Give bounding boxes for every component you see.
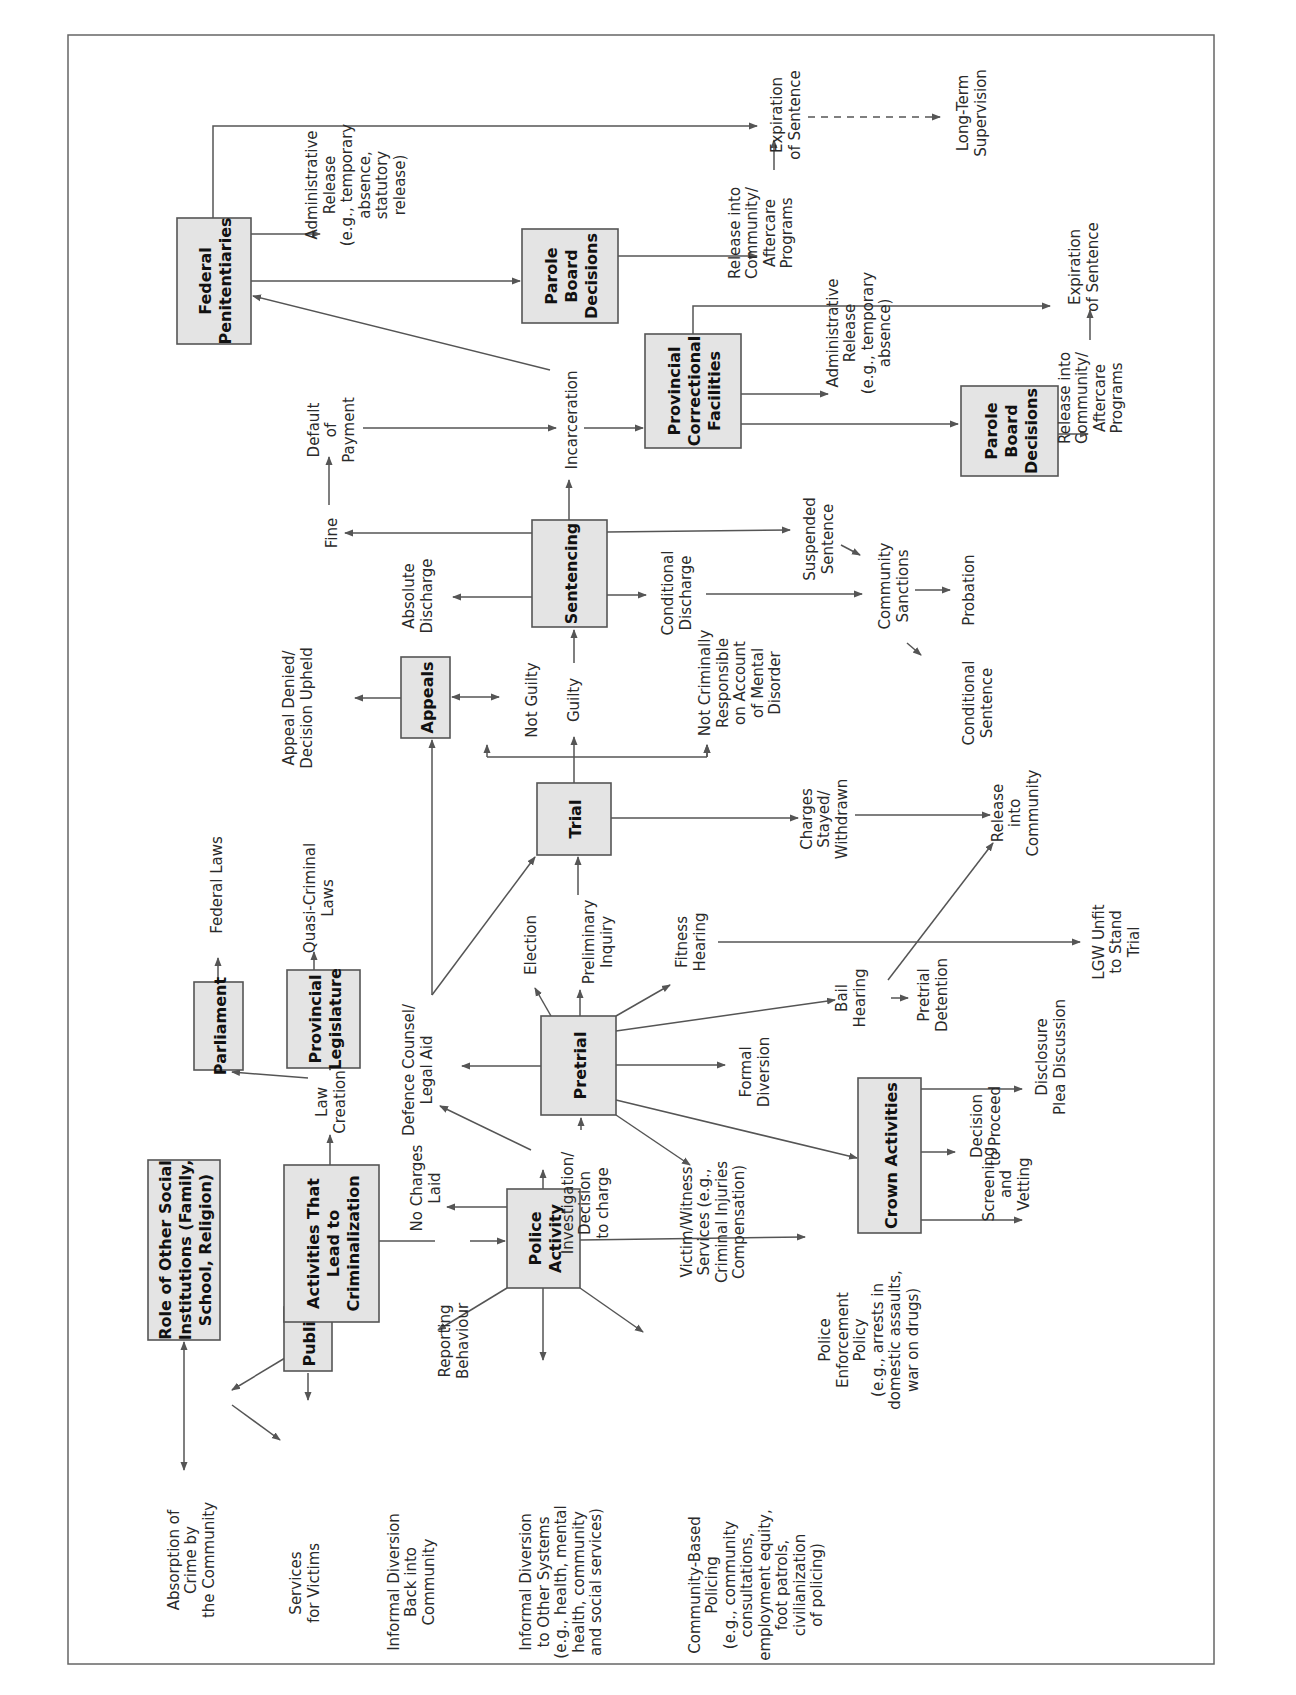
node-label-crown-activities: Crown Activities	[882, 1082, 901, 1229]
label-screening: ScreeningandVetting	[980, 1147, 1033, 1222]
label-preliminary-inquiry-line: Inquiry	[598, 916, 616, 968]
label-fine: Fine	[323, 518, 341, 548]
label-long-term-supervision-line: Supervision	[972, 69, 990, 157]
label-informal-diversion-systems: Informal Diversionto Other Systems(e.g.,…	[517, 1505, 605, 1658]
label-release-community-line: Release	[989, 784, 1007, 843]
label-charges-stayed-line: Withdrawn	[833, 779, 851, 860]
edge-law_creation-to-parliament	[232, 1072, 308, 1078]
label-victim-witness-line: Services (e.g.,	[695, 1169, 713, 1276]
label-release-aftercare-provincial-line: Programs	[1108, 362, 1126, 433]
label-quasi-criminal-line: Laws	[319, 879, 337, 917]
label-informal-diversion-systems-line: (e.g., health, mental	[552, 1505, 570, 1658]
label-police-enforcement-line: war on drugs)	[904, 1288, 922, 1392]
label-bail-hearing: BailHearing	[833, 968, 869, 1027]
edge-pretrial-to-election	[535, 988, 551, 1016]
label-informal-diversion-systems-line: Informal Diversion	[517, 1513, 535, 1651]
label-pretrial-detention: PretrialDetention	[915, 958, 951, 1032]
node-label-parliament: Parliament	[211, 976, 230, 1075]
label-admin-release-provincial-line: absence)	[876, 299, 894, 368]
node-label-provincial-legislature-line: Legislature	[326, 968, 345, 1070]
node-label-provincial-legislature: ProvincialLegislature	[306, 968, 345, 1070]
node-label-pretrial: Pretrial	[571, 1032, 590, 1100]
label-fitness-hearing: FitnessHearing	[673, 912, 709, 971]
node-label-social-institutions: Role of Other SocialInstitutions (Family…	[156, 1160, 215, 1341]
node-trial: Trial	[537, 783, 611, 855]
label-police-enforcement-line: domestic assaults,	[886, 1270, 904, 1410]
label-suspended-sentence-line: Suspended	[801, 497, 819, 580]
label-admin-release-provincial-line: (e.g., temporary	[859, 272, 877, 395]
label-conditional-discharge-line: Discharge	[677, 555, 695, 630]
label-informal-diversion-systems-line: and social services)	[587, 1508, 605, 1656]
label-law-creation: LawCreation	[313, 1070, 349, 1133]
label-informal-diversion-systems-line: to Other Systems	[535, 1516, 553, 1647]
label-lgw-unfit-line: LGW Unfit	[1090, 904, 1108, 980]
node-label-activities-criminalization-line: Criminalization	[344, 1175, 363, 1311]
label-release-aftercare-federal-line: Aftercare	[761, 199, 779, 267]
edge-pretrial-to-bail_hearing	[616, 1000, 835, 1031]
label-election: Election	[522, 915, 540, 975]
label-community-policing-line: Community-Based	[686, 1516, 704, 1653]
label-absorption-line: Absorption of	[165, 1509, 183, 1610]
label-defence-counsel-line: Defence Counsel/	[400, 1003, 418, 1136]
node-label-activities-criminalization-line: Lead to	[324, 1210, 343, 1278]
label-community-policing-line: civilianization	[791, 1534, 809, 1636]
edge-pretrial-to-crown_activities	[616, 1100, 857, 1158]
node-label-social-institutions-line: School, Religion)	[196, 1174, 215, 1326]
node-label-trial: Trial	[566, 800, 585, 839]
label-absolute-discharge-line: Absolute	[400, 563, 418, 629]
edge-sentencing-to-suspended_sentence	[607, 530, 790, 532]
label-not-guilty: Not Guilty	[523, 662, 541, 737]
labels-layer: Absorption ofCrime bythe CommunityServic…	[165, 69, 1143, 1661]
label-community-sanctions-line: Community	[876, 542, 894, 629]
node-parole-board-federal: ParoleBoardDecisions	[522, 229, 618, 323]
label-release-community: ReleaseintoCommunity	[989, 769, 1042, 856]
label-election-line: Election	[522, 915, 540, 975]
node-label-sentencing-line: Sentencing	[562, 523, 581, 624]
node-parliament: Parliament	[194, 976, 243, 1075]
label-admin-release-federal-line: release)	[391, 155, 409, 216]
label-informal-diversion-systems-line: health, community	[570, 1511, 588, 1653]
node-provincial-correctional: ProvincialCorrectionalFacilities	[645, 334, 741, 448]
label-community-policing-line: of policing)	[808, 1543, 826, 1627]
label-reporting-behaviour: ReportingBehaviour	[436, 1302, 472, 1379]
label-expiration-provincial: Expirationof Sentence	[1066, 222, 1102, 312]
node-label-parole-board-federal-line: Parole	[542, 247, 561, 304]
label-charges-stayed-line: Charges	[798, 788, 816, 850]
label-admin-release-federal-line: absence,	[356, 151, 374, 219]
label-investigation-line: Investigation/	[559, 1151, 577, 1254]
label-law-creation-line: Law	[313, 1087, 331, 1117]
node-social-institutions: Role of Other SocialInstitutions (Family…	[148, 1160, 220, 1341]
label-screening-line: Vetting	[1015, 1157, 1033, 1210]
label-ncr-line: Not Criminally	[696, 630, 714, 737]
node-label-provincial-correctional-line: Provincial	[665, 346, 684, 435]
label-default-payment: DefaultofPayment	[305, 397, 358, 463]
label-community-sanctions-line: Sanctions	[894, 549, 912, 622]
label-no-charges-line: Laid	[426, 1172, 444, 1203]
label-disclosure: DisclosurePlea Discussion	[1033, 999, 1069, 1115]
label-informal-diversion-community-line: Community	[420, 1538, 438, 1625]
label-admin-release-federal-line: Release	[321, 156, 339, 215]
label-release-aftercare-federal-line: Community/	[743, 186, 761, 279]
label-quasi-criminal-line: Quasi-Criminal	[301, 843, 319, 953]
label-admin-release-federal-line: (e.g., temporary	[338, 124, 356, 247]
node-label-provincial-legislature-line: Provincial	[306, 974, 325, 1063]
node-label-federal-penitentiaries-line: Federal	[196, 247, 215, 315]
label-pretrial-detention-line: Detention	[933, 958, 951, 1032]
node-label-parole-board-provincial-line: Decisions	[1022, 388, 1041, 474]
label-admin-release-federal: AdministrativeRelease(e.g., temporaryabs…	[303, 124, 409, 247]
edge-pretrial-to-fitness_hearing	[616, 985, 670, 1016]
node-label-pretrial-line: Pretrial	[571, 1032, 590, 1100]
edge-pretrial-to-victim_witness	[616, 1115, 690, 1165]
criminal-justice-flowchart: Role of Other SocialInstitutions (Family…	[0, 0, 1296, 1695]
edge-absorption-to-services_victims	[232, 1405, 280, 1440]
label-investigation-line: Decision	[576, 1171, 594, 1235]
label-admin-release-provincial: AdministrativeRelease(e.g., temporaryabs…	[824, 272, 895, 395]
label-admin-release-provincial-line: Release	[841, 304, 859, 363]
label-release-aftercare-provincial-line: Release into	[1056, 352, 1074, 444]
label-informal-diversion-community-line: Informal Diversion	[385, 1513, 403, 1651]
label-community-policing-line: (e.g., community	[721, 1521, 739, 1649]
label-bail-hearing-line: Bail	[833, 984, 851, 1012]
edge-incarceration-to-federal_penitentiaries	[253, 296, 550, 370]
label-guilty: Guilty	[565, 678, 583, 722]
node-label-parliament-line: Parliament	[211, 976, 230, 1075]
